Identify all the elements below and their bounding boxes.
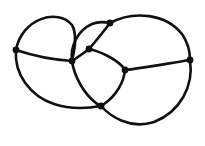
- graph-vertex: [69, 58, 76, 65]
- graph-vertex: [107, 20, 114, 27]
- graph-vertex: [13, 47, 20, 54]
- graph-diagram-canvas: [0, 0, 205, 146]
- graph-vertex: [98, 103, 105, 110]
- graph-vertex: [187, 57, 194, 64]
- graph-vertex: [86, 46, 93, 53]
- graph-vertex: [122, 67, 129, 74]
- figure-root: [0, 0, 205, 146]
